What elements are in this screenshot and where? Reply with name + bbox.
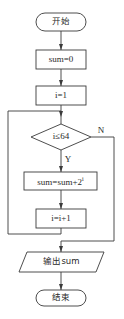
output-label: 输出sum xyxy=(23,257,100,266)
increment-label: i=i+1 xyxy=(36,214,86,223)
arrowhead-icon xyxy=(59,80,63,86)
yes-label: Y xyxy=(63,155,73,164)
accumulate-label-base: sum=sum+2 xyxy=(37,177,82,187)
arrowhead-icon xyxy=(59,111,63,117)
flowchart-canvas xyxy=(0,0,124,319)
end-label: 结束 xyxy=(36,293,86,302)
start-label: 开始 xyxy=(36,17,86,26)
arrowhead-icon xyxy=(59,166,63,172)
no-label: N xyxy=(95,126,107,135)
accumulate-label: sum=sum+2i xyxy=(24,176,97,187)
arrowhead-icon xyxy=(59,203,63,209)
arrowhead-icon xyxy=(59,284,63,290)
arrowhead-icon xyxy=(59,246,63,252)
arrowhead-icon xyxy=(59,44,63,50)
accumulate-label-exponent: i xyxy=(82,176,84,182)
init-i-label: i=1 xyxy=(36,91,86,100)
condition-label: i≤64 xyxy=(31,132,91,141)
init-sum-label: sum=0 xyxy=(36,55,86,64)
